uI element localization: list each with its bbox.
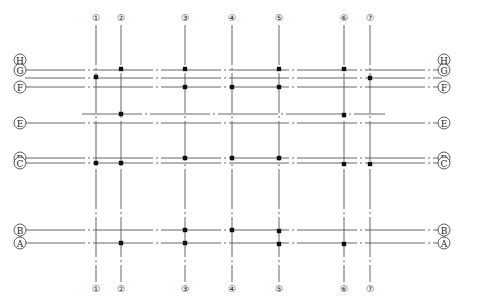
column-node-3-F [183, 85, 187, 89]
column-node-3-A [183, 241, 187, 245]
axis-bubble-bottom-7: ⑦ [366, 284, 374, 294]
axis-bubble-top-6: ⑥ [340, 13, 348, 23]
column-node-2-C [119, 161, 123, 165]
column-node-7-G' [368, 76, 372, 80]
axis-bubble-left-E: E [14, 117, 26, 129]
axis-bubble-right-B: B [438, 224, 450, 236]
column-node-1-G' [94, 75, 98, 79]
axis-bubble-left-F-label: F [17, 83, 23, 93]
column-node-4-F [230, 85, 234, 89]
axis-bubble-top-2-label: ② [117, 13, 125, 23]
column-node-7-C [368, 162, 372, 166]
axis-bubble-left-G-label: G [16, 66, 23, 76]
column-node-6-C [342, 162, 346, 166]
axis-bubble-left-B-label: B [17, 226, 24, 236]
axis-bubble-right-C-label: C [441, 159, 448, 169]
grid-drawing-canvas: HHGGFFEEDDCCBBAA①①②②③③④④⑤⑤⑥⑥⑦⑦ [0, 0, 484, 305]
column-node-1-C [94, 161, 98, 165]
axis-bubble-left-G: G [14, 64, 26, 76]
column-node-2-A [119, 241, 123, 245]
axis-bubble-top-4-label: ④ [228, 13, 236, 23]
axis-bubble-left-A: A [14, 237, 26, 249]
column-node-5-F [277, 85, 281, 89]
axis-bubble-top-7-label: ⑦ [366, 13, 374, 23]
axis-bubble-bottom-6-label: ⑥ [340, 284, 348, 294]
axis-bubble-left-C: C [14, 157, 26, 169]
axis-bubble-bottom-4: ④ [228, 284, 236, 294]
axis-bubble-bottom-4-label: ④ [228, 284, 236, 294]
axis-bubble-right-G: G [438, 64, 450, 76]
axis-bubble-top-2: ② [117, 13, 125, 23]
axis-bubble-right-E: E [438, 117, 450, 129]
axis-bubble-bottom-2: ② [117, 284, 125, 294]
structural-grid-plan: HHGGFFEEDDCCBBAA①①②②③③④④⑤⑤⑥⑥⑦⑦ [0, 0, 484, 305]
axis-bubble-bottom-5-label: ⑤ [275, 284, 283, 294]
axis-bubble-top-3-label: ③ [181, 13, 189, 23]
axis-bubble-bottom-5: ⑤ [275, 284, 283, 294]
column-node-5-D [277, 156, 281, 160]
axis-bubble-left-B: B [14, 224, 26, 236]
column-node-6-E' [342, 113, 346, 117]
axis-bubble-right-A-label: A [440, 239, 448, 249]
column-node-3-D [183, 156, 187, 160]
axis-bubble-right-A: A [438, 237, 450, 249]
axis-bubble-bottom-6: ⑥ [340, 284, 348, 294]
axis-bubble-bottom-3: ③ [181, 284, 189, 294]
column-node-5-G [277, 67, 281, 71]
column-node-3-B [183, 228, 187, 232]
column-node-2-E' [119, 112, 123, 116]
column-node-6-A [342, 242, 346, 246]
column-node-4-D [230, 156, 234, 160]
axis-bubble-top-7: ⑦ [366, 13, 374, 23]
axis-bubble-top-3: ③ [181, 13, 189, 23]
column-node-5-A [277, 242, 281, 246]
axis-bubble-right-B-label: B [441, 226, 448, 236]
axis-bubble-right-C: C [438, 157, 450, 169]
axis-bubble-top-1: ① [92, 13, 100, 23]
axis-bubble-top-6-label: ⑥ [340, 13, 348, 23]
axis-bubble-bottom-2-label: ② [117, 284, 125, 294]
column-node-4-B [230, 228, 234, 232]
axis-bubble-top-4: ④ [228, 13, 236, 23]
axis-bubble-top-5: ⑤ [275, 13, 283, 23]
axis-bubble-bottom-1-label: ① [92, 284, 100, 294]
axis-bubble-left-F: F [14, 81, 26, 93]
axis-bubble-right-F: F [438, 81, 450, 93]
column-node-2-G [119, 67, 123, 71]
axis-bubble-left-C-label: C [17, 159, 24, 169]
column-node-6-G [342, 67, 346, 71]
axis-bubble-left-E-label: E [17, 119, 24, 129]
axis-bubble-right-F-label: F [441, 83, 447, 93]
column-node-5-B [277, 229, 281, 233]
column-node-3-G [183, 67, 187, 71]
axis-bubble-left-A-label: A [16, 239, 24, 249]
axis-bubble-top-5-label: ⑤ [275, 13, 283, 23]
axis-bubble-bottom-3-label: ③ [181, 284, 189, 294]
axis-bubble-right-G-label: G [440, 66, 447, 76]
axis-bubble-bottom-7-label: ⑦ [366, 284, 374, 294]
axis-bubble-right-E-label: E [441, 119, 448, 129]
axis-bubble-bottom-1: ① [92, 284, 100, 294]
axis-bubble-top-1-label: ① [92, 13, 100, 23]
